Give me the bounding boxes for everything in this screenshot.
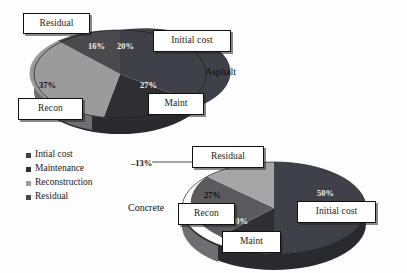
callout-concrete-residual[interactable]: Residual: [192, 146, 264, 168]
legend-label-initial-cost: Intial cost: [35, 150, 73, 160]
concrete-recon-percent: 27%: [204, 190, 221, 200]
chart-name-concrete: Concrete: [128, 202, 164, 213]
legend-swatch-initial-cost: [26, 153, 31, 158]
callout-asphalt-residual[interactable]: Residual: [23, 13, 90, 34]
asphalt-residual-percent: 16%: [88, 41, 105, 51]
asphalt-maint-percent: 27%: [140, 80, 157, 90]
concrete-initial-percent: 50%: [317, 188, 334, 198]
callout-asphalt-recon[interactable]: Recon: [18, 98, 83, 120]
legend-swatch-maintenance: [26, 167, 31, 172]
legend-label-maintenance: Maintenance: [35, 164, 84, 174]
legend: Intial cost Maintenance Reconstruction R…: [26, 148, 93, 204]
callout-concrete-recon[interactable]: Recon: [178, 203, 235, 225]
callout-asphalt-initial-cost[interactable]: Initial cost: [153, 30, 231, 52]
legend-item-maintenance: Maintenance: [26, 162, 93, 176]
legend-swatch-reconstruction: [26, 181, 31, 186]
legend-label-residual: Residual: [35, 192, 68, 202]
callout-concrete-initial-cost[interactable]: Initial cost: [297, 201, 376, 223]
callout-asphalt-maint[interactable]: Maint: [148, 93, 204, 115]
asphalt-initial-percent: 20%: [117, 41, 134, 51]
asphalt-recon-percent: 37%: [39, 80, 56, 90]
legend-item-initial-cost: Intial cost: [26, 148, 93, 162]
legend-item-reconstruction: Reconstruction: [26, 176, 93, 190]
chart-name-asphalt: Asphalt: [205, 66, 236, 77]
callout-concrete-maint[interactable]: Maint: [222, 231, 281, 253]
figure-canvas: 16% 20% 37% 27% Asphalt Residual Initial…: [0, 0, 407, 273]
legend-item-residual: Residual: [26, 190, 93, 204]
legend-label-reconstruction: Reconstruction: [35, 178, 93, 188]
legend-swatch-residual: [26, 195, 31, 200]
